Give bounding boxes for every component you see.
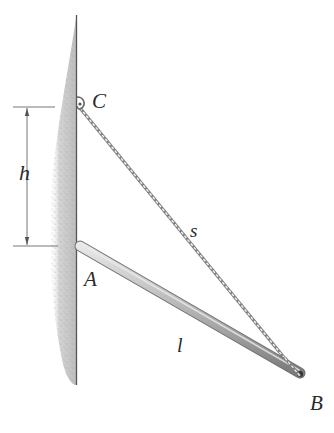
label-s: s — [190, 221, 197, 240]
rod — [80, 244, 303, 377]
label-c: C — [92, 91, 106, 112]
wall — [50, 15, 76, 385]
label-h: h — [19, 162, 30, 184]
diagram-figure: C h s A l B — [0, 0, 334, 433]
bracket-c — [77, 97, 84, 109]
label-b: B — [310, 393, 323, 414]
cable — [80, 108, 300, 377]
label-a: A — [84, 269, 97, 290]
label-l: l — [177, 335, 183, 355]
